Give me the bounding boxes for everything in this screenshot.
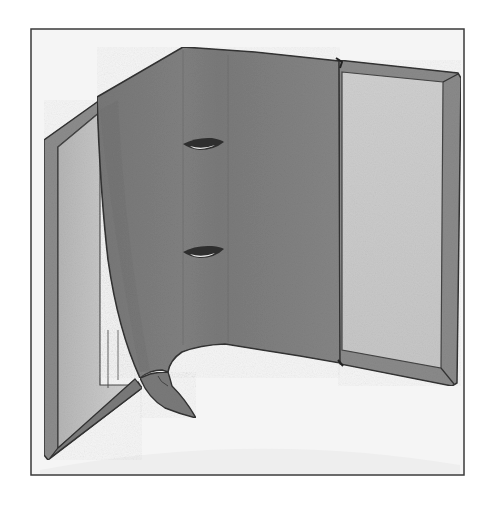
right-cover-panel (338, 60, 461, 386)
whale-binder-illustration (0, 0, 501, 505)
whale-body (97, 47, 340, 378)
illustration-canvas (0, 0, 501, 505)
